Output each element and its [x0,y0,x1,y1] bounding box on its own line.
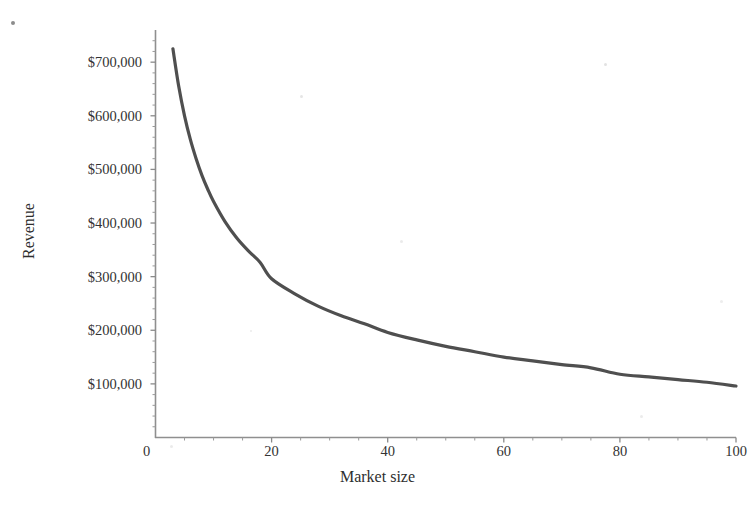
x-axis-tick-label: 80 [613,443,628,460]
x-axis-tick-label: 100 [725,443,747,460]
y-axis-tick-label: $600,000 [40,107,142,124]
x-axis-tick-label: 20 [264,443,279,460]
x-axis-tick-label: 40 [380,443,395,460]
x-axis-title: Market size [0,468,755,486]
revenue-curve-line [173,49,736,386]
y-axis-tick-label: $200,000 [40,322,142,339]
y-axis-tick-label: $300,000 [40,268,142,285]
y-axis-tick-label: $700,000 [40,54,142,71]
y-axis-tick-label: $500,000 [40,161,142,178]
y-axis-tick-label: $400,000 [40,215,142,232]
chart-figure: $100,000$200,000$300,000$400,000$500,000… [0,0,755,506]
plot-area [0,0,755,506]
y-axis-tick-label: $100,000 [40,375,142,392]
y-axis-title: Revenue [20,171,38,291]
x-axis-tick-label: 60 [497,443,512,460]
x-axis-tick-label: 0 [143,443,150,460]
